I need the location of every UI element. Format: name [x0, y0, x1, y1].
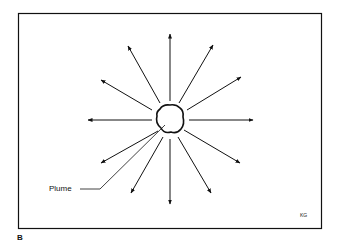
panel-label: B — [17, 233, 23, 242]
plume-label: Plume — [49, 184, 72, 193]
author-signature: KG — [300, 212, 307, 218]
plume-shape — [157, 105, 184, 133]
radial-diagram — [0, 0, 340, 243]
